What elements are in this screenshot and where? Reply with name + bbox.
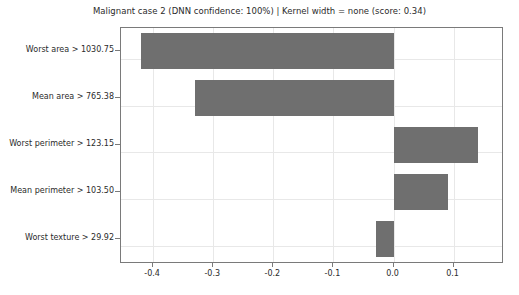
y-axis-label-worst-texture: Worst texture > 29.92 — [2, 233, 114, 242]
x-axis-label-neg02: -0.2 — [252, 269, 292, 278]
x-axis-tick — [212, 263, 213, 267]
y-axis-label-mean-perimeter: Mean perimeter > 103.50 — [2, 186, 114, 195]
bar-series — [121, 28, 502, 262]
bar-mean-perimeter — [394, 174, 448, 210]
y-axis-label-mean-area: Mean area > 765.38 — [2, 92, 114, 101]
chart-figure: Malignant case 2 (DNN confidence: 100%) … — [0, 0, 519, 295]
x-axis-label-zero: 0.0 — [373, 269, 413, 278]
x-axis-tick — [453, 263, 454, 267]
x-axis-tick — [332, 263, 333, 267]
x-axis-label-pos01: 0.1 — [433, 269, 473, 278]
x-axis-label-neg03: -0.3 — [192, 269, 232, 278]
chart-title: Malignant case 2 (DNN confidence: 100%) … — [0, 6, 519, 16]
x-axis-label-neg01: -0.1 — [312, 269, 352, 278]
x-axis-label-neg04: -0.4 — [132, 269, 172, 278]
plot-area — [120, 27, 503, 263]
x-axis-tick — [272, 263, 273, 267]
bar-worst-perimeter — [394, 127, 478, 163]
x-axis-tick — [152, 263, 153, 267]
bar-worst-area — [141, 33, 393, 69]
x-axis-tick — [393, 263, 394, 267]
y-axis-label-worst-perimeter: Worst perimeter > 123.15 — [2, 139, 114, 148]
y-axis-label-worst-area: Worst area > 1030.75 — [2, 45, 114, 54]
bar-mean-area — [195, 80, 393, 116]
bar-worst-texture — [376, 221, 394, 257]
